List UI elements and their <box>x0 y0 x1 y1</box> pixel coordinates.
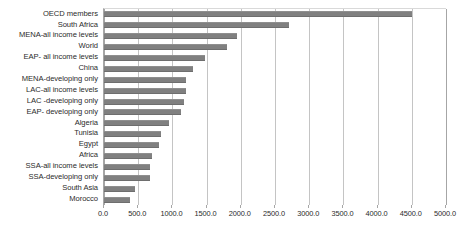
bar <box>104 109 181 115</box>
category-label: EAP- all income levels <box>0 52 101 63</box>
bar-row <box>104 53 446 64</box>
category-label: MENA-all income levels <box>0 30 101 41</box>
category-label: EAP- developing only <box>0 106 101 117</box>
bar-row <box>104 42 446 53</box>
bar-row <box>104 194 446 205</box>
bar <box>104 22 289 28</box>
tick-mark <box>377 205 378 208</box>
bar <box>104 120 169 126</box>
bar <box>104 33 237 39</box>
bar <box>104 11 412 17</box>
value-axis: 0.0500.01000.01500.02000.02500.03000.035… <box>103 205 445 221</box>
tick-mark <box>342 205 343 208</box>
tick-label: 0.0 <box>98 209 108 218</box>
bar-row <box>104 161 446 172</box>
category-label: World <box>0 41 101 52</box>
category-label: SSA-all income levels <box>0 160 101 171</box>
bar <box>104 142 159 148</box>
category-label: Tunisia <box>0 128 101 139</box>
tick-label: 3500.0 <box>331 209 353 218</box>
tick-mark <box>411 205 412 208</box>
bar-row <box>104 31 446 42</box>
bar <box>104 131 161 137</box>
bar-row <box>104 183 446 194</box>
bar-row <box>104 140 446 151</box>
category-label: South Africa <box>0 19 101 30</box>
bar-row <box>104 107 446 118</box>
bar-row <box>104 129 446 140</box>
bar-row <box>104 74 446 85</box>
bar-row <box>104 151 446 162</box>
bar-row <box>104 63 446 74</box>
bar <box>104 55 205 61</box>
bar-row <box>104 172 446 183</box>
category-label: SSA-developing only <box>0 171 101 182</box>
tick-label: 1500.0 <box>195 209 217 218</box>
category-label: LAC-all income levels <box>0 84 101 95</box>
plot-area <box>103 8 446 205</box>
tick-label: 5000.0 <box>434 209 456 218</box>
category-label: OECD members <box>0 8 101 19</box>
tick-mark <box>445 205 446 208</box>
category-axis: OECD membersSouth AfricaMENA-all income … <box>0 8 101 204</box>
bar <box>104 99 184 105</box>
bar <box>104 153 152 159</box>
tick-label: 1000.0 <box>160 209 182 218</box>
category-label: MENA-developing only <box>0 73 101 84</box>
bar-row <box>104 9 446 20</box>
tick-mark <box>137 205 138 208</box>
tick-mark <box>240 205 241 208</box>
tick-mark <box>274 205 275 208</box>
bar <box>104 44 227 50</box>
bar-row <box>104 20 446 31</box>
tick-label: 500.0 <box>128 209 146 218</box>
tick-label: 4500.0 <box>400 209 422 218</box>
tick-mark <box>308 205 309 208</box>
tick-label: 2500.0 <box>263 209 285 218</box>
category-label: Algeria <box>0 117 101 128</box>
bar <box>104 186 135 192</box>
bar-row <box>104 96 446 107</box>
tick-mark <box>103 205 104 208</box>
category-label: Egypt <box>0 139 101 150</box>
bar-row <box>104 85 446 96</box>
bar <box>104 197 130 203</box>
bar <box>104 164 150 170</box>
tick-label: 4000.0 <box>366 209 388 218</box>
tick-label: 2000.0 <box>229 209 251 218</box>
category-label: Africa <box>0 150 101 161</box>
tick-mark <box>206 205 207 208</box>
category-label: LAC -developing only <box>0 95 101 106</box>
bar <box>104 175 150 181</box>
category-label: South Asia <box>0 182 101 193</box>
category-label: Morocco <box>0 193 101 204</box>
gridline <box>446 9 447 205</box>
bar <box>104 66 193 72</box>
bar <box>104 77 186 83</box>
tick-label: 3000.0 <box>297 209 319 218</box>
bar-row <box>104 118 446 129</box>
bar <box>104 88 186 94</box>
bar-series <box>104 9 446 205</box>
bar-chart: OECD membersSouth AfricaMENA-all income … <box>0 0 466 243</box>
tick-mark <box>171 205 172 208</box>
category-label: China <box>0 62 101 73</box>
